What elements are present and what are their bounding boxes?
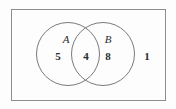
set-b-only-count: 8 [100, 51, 116, 62]
set-intersection-count: 4 [78, 51, 94, 62]
set-a-label: A [58, 34, 74, 45]
set-a-only-count: 5 [50, 51, 66, 62]
venn-diagram: A B 5 4 8 1 [0, 0, 176, 109]
outside-sets-count: 1 [139, 51, 155, 62]
set-b-label: B [100, 34, 116, 45]
